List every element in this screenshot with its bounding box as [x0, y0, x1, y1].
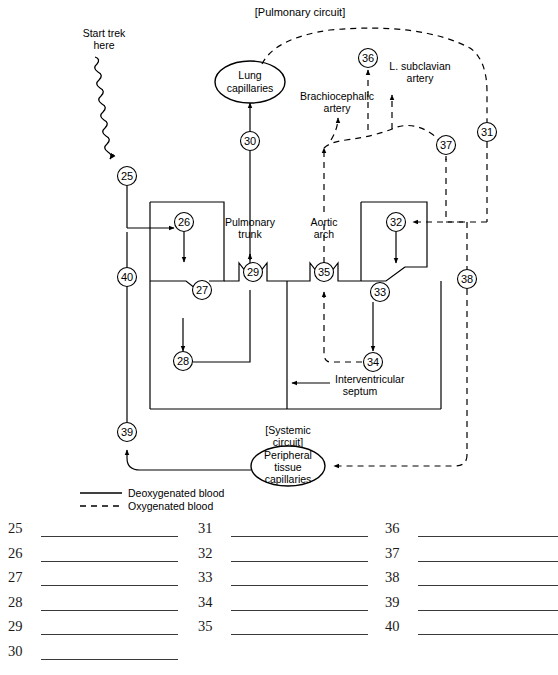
callout-30[interactable]: 30	[241, 132, 260, 151]
callout-number-36: 36	[362, 52, 374, 64]
answer-row-37: 37	[385, 545, 555, 570]
callout-27[interactable]: 27	[193, 281, 212, 300]
legend-deoxygenated-label: Deoxygenated blood	[128, 487, 224, 499]
answer-blank-31[interactable]	[231, 536, 368, 537]
answer-blanks-section: 252627282930 3132333435 3637383940	[0, 520, 558, 675]
brachiocephalic-label-line1: Brachiocephalic	[300, 90, 374, 102]
pulmonary-trunk-label-line2: trunk	[238, 228, 262, 240]
answer-blank-26[interactable]	[41, 561, 178, 562]
answer-number-33: 33	[198, 569, 213, 586]
answer-number-39: 39	[385, 594, 400, 611]
callout-number-38: 38	[461, 273, 473, 285]
callout-number-39: 39	[121, 426, 133, 438]
answer-row-29: 29	[8, 618, 183, 643]
answer-blank-28[interactable]	[41, 610, 178, 611]
answer-blank-32[interactable]	[231, 561, 368, 562]
answer-blank-25[interactable]	[41, 536, 178, 537]
legend-oxygenated-label: Oxygenated blood	[128, 500, 213, 512]
answer-column-1: 252627282930	[8, 520, 183, 667]
systemic-circuit-title-line2: circuit]	[273, 436, 303, 448]
lung-capillaries-label-line2: capillaries	[227, 82, 274, 94]
subclavian-label-line2: artery	[407, 72, 435, 84]
callout-31[interactable]: 31	[478, 123, 497, 142]
answer-row-34: 34	[198, 594, 373, 619]
answer-number-34: 34	[198, 594, 213, 611]
answer-row-27: 27	[8, 569, 183, 594]
callout-29[interactable]: 29	[244, 263, 263, 282]
aortic-arch-label-line2: arch	[314, 228, 335, 240]
callout-40[interactable]: 40	[118, 268, 137, 287]
start-trek-squiggle-arrow	[95, 57, 111, 159]
callout-39[interactable]: 39	[118, 423, 137, 442]
vessel-aorta-to-capillaries	[334, 455, 467, 466]
subclavian-label-line1: L. subclavian	[389, 60, 450, 72]
peripheral-capillaries-label-line3: capillaries	[265, 473, 312, 485]
vessel-pulmonary-veins-arc	[262, 28, 487, 122]
callout-33[interactable]: 33	[371, 283, 390, 302]
answer-row-32: 32	[198, 545, 373, 570]
answer-row-26: 26	[8, 545, 183, 570]
start-trek-label-line2: here	[93, 39, 114, 51]
callout-36[interactable]: 36	[359, 49, 378, 68]
callout-number-31: 31	[481, 126, 493, 138]
answer-blank-36[interactable]	[418, 536, 558, 537]
answer-number-26: 26	[8, 545, 23, 562]
callout-number-37: 37	[440, 139, 452, 151]
circulatory-system-diagram: [Pulmonary circuit] Start trek here	[0, 0, 558, 520]
vessel-brachiocephalic-branch	[331, 118, 338, 140]
answer-row-38: 38	[385, 569, 555, 594]
callout-34[interactable]: 34	[364, 353, 383, 372]
callout-number-33: 33	[374, 286, 386, 298]
answer-blank-33[interactable]	[231, 585, 368, 586]
vessel-aortic-arch-curve	[324, 125, 446, 160]
callout-number-32: 32	[390, 216, 402, 228]
answer-number-37: 37	[385, 545, 400, 562]
callout-35[interactable]: 35	[315, 263, 334, 282]
pulmonary-circuit-title: [Pulmonary circuit]	[255, 6, 345, 18]
answer-blank-39[interactable]	[418, 610, 558, 611]
answer-row-36: 36	[385, 520, 555, 545]
answer-row-33: 33	[198, 569, 373, 594]
callout-number-27: 27	[196, 284, 208, 296]
answer-blank-40[interactable]	[418, 634, 558, 635]
answer-number-35: 35	[198, 618, 213, 635]
legend: Deoxygenated blood Oxygenated blood	[80, 487, 224, 512]
callout-38[interactable]: 38	[458, 270, 477, 289]
callout-37[interactable]: 37	[437, 136, 456, 155]
start-trek-label-line1: Start trek	[83, 27, 126, 39]
answer-blank-38[interactable]	[418, 585, 558, 586]
answer-blank-29[interactable]	[41, 634, 178, 635]
callout-32[interactable]: 32	[387, 213, 406, 232]
lung-capillaries-label-line1: Lung	[238, 69, 262, 81]
answer-row-39: 39	[385, 594, 555, 619]
answer-number-25: 25	[8, 520, 23, 537]
answer-blank-30[interactable]	[41, 659, 178, 660]
answer-blank-34[interactable]	[231, 610, 368, 611]
answer-row-31: 31	[198, 520, 373, 545]
vessel-systemic-venous-return	[127, 450, 251, 470]
peripheral-capillaries-label-line1: Peripheral	[264, 449, 312, 461]
callout-26[interactable]: 26	[175, 213, 194, 232]
answer-number-29: 29	[8, 618, 23, 635]
answer-row-28: 28	[8, 594, 183, 619]
answer-row-35: 35	[198, 618, 373, 643]
callout-number-26: 26	[178, 216, 190, 228]
answer-number-31: 31	[198, 520, 213, 537]
peripheral-capillaries-label-line2: tissue	[274, 461, 302, 473]
callout-25[interactable]: 25	[118, 167, 137, 186]
aortic-arch-label-line1: Aortic	[311, 216, 338, 228]
answer-blank-27[interactable]	[41, 585, 178, 586]
pulmonary-trunk-label-line1: Pulmonary	[225, 216, 276, 228]
answer-blank-35[interactable]	[231, 634, 368, 635]
callout-number-25: 25	[121, 170, 133, 182]
answer-number-36: 36	[385, 520, 400, 537]
callout-number-28: 28	[177, 355, 189, 367]
callout-number-40: 40	[121, 271, 133, 283]
callout-28[interactable]: 28	[174, 352, 193, 371]
answer-column-2: 3132333435	[198, 520, 373, 643]
answer-number-30: 30	[8, 643, 23, 660]
answer-blank-37[interactable]	[418, 561, 558, 562]
vessel-left-ventricle-to-aortic-valve	[324, 292, 362, 362]
answer-row-25: 25	[8, 520, 183, 545]
systemic-circuit-title-line1: [Systemic	[265, 424, 311, 436]
